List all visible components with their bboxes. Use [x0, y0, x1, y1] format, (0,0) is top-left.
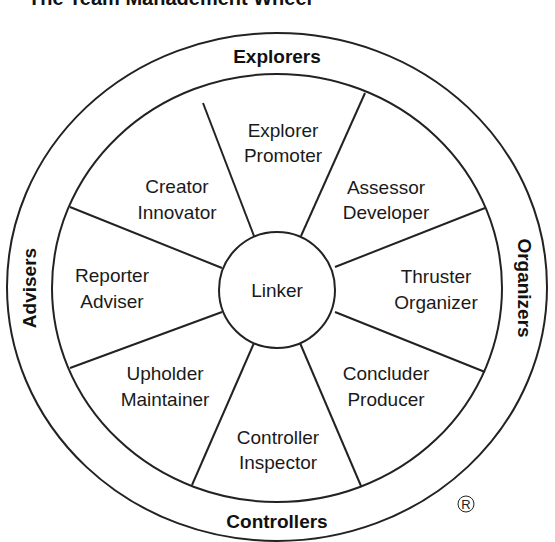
segment-line2: Innovator — [137, 202, 217, 223]
segment-assessor-developer: Assessor Developer — [343, 177, 430, 223]
segment-upholder-maintainer: Upholder Maintainer — [121, 363, 210, 410]
segment-line2: Developer — [343, 202, 430, 223]
segment-line1: Upholder — [126, 363, 204, 384]
segment-line2: Inspector — [239, 452, 318, 473]
segment-line1: Controller — [237, 427, 320, 448]
segment-thruster-organizer: Thruster Organizer — [394, 266, 478, 313]
segment-line1: Concluder — [343, 363, 430, 384]
group-label-top: Explorers — [233, 46, 321, 67]
group-label-left: Advisers — [19, 248, 40, 328]
segment-creator-innovator: Creator Innovator — [137, 176, 217, 223]
segment-line2: Adviser — [80, 291, 144, 312]
segment-line1: Creator — [145, 176, 209, 197]
segment-controller-inspector: Controller Inspector — [237, 427, 320, 473]
center-label: Linker — [251, 280, 303, 301]
segment-explorer-promoter: Explorer Promoter — [244, 120, 323, 166]
segment-line2: Promoter — [244, 145, 323, 166]
segment-line1: Reporter — [75, 265, 150, 286]
segment-concluder-producer: Concluder Producer — [343, 363, 430, 410]
segment-line2: Organizer — [394, 292, 478, 313]
segment-line1: Explorer — [248, 120, 319, 141]
segment-line2: Maintainer — [121, 389, 210, 410]
group-label-right: Organizers — [514, 238, 535, 337]
segment-reporter-adviser: Reporter Adviser — [75, 265, 150, 312]
segment-line1: Assessor — [347, 177, 426, 198]
team-wheel-diagram: Linker Explorers Controllers Advisers Or… — [0, 0, 555, 542]
segment-line2: Producer — [347, 389, 425, 410]
group-label-bottom: Controllers — [226, 511, 327, 532]
segment-line1: Thruster — [401, 266, 472, 287]
registered-mark: R — [461, 497, 470, 512]
